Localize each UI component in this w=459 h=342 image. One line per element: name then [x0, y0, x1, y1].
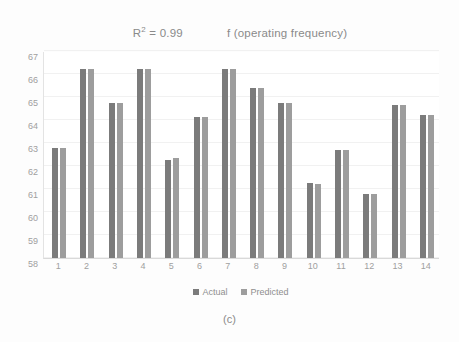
- bar-group: [222, 52, 236, 258]
- bar-actual-9: [278, 103, 284, 258]
- bar-predicted-14: [428, 115, 434, 258]
- bars-layer: [45, 52, 439, 258]
- bar-group: [109, 52, 123, 258]
- bar-predicted-8: [258, 88, 264, 258]
- legend-label: Predicted: [250, 287, 288, 297]
- chart-figure: R2 = 0.99 f (operating frequency) 676665…: [0, 0, 459, 342]
- bar-predicted-13: [400, 105, 406, 258]
- bar-group: [420, 52, 434, 258]
- legend-swatch-icon: [193, 289, 199, 295]
- bar-actual-11: [335, 150, 341, 258]
- bar-group: [363, 52, 377, 258]
- bar-predicted-4: [145, 69, 151, 258]
- x-axis-tick-label: 3: [112, 261, 117, 271]
- bar-predicted-1: [60, 148, 66, 258]
- legend-item-actual[interactable]: Actual: [193, 287, 227, 297]
- x-axis-tick-label: 9: [282, 261, 287, 271]
- x-axis-tick-label: 6: [197, 261, 202, 271]
- chart-legend: ActualPredicted: [43, 285, 439, 299]
- bar-predicted-3: [117, 103, 123, 258]
- x-axis-tick-label: 7: [225, 261, 230, 271]
- bar-predicted-9: [286, 103, 292, 258]
- bar-predicted-10: [315, 184, 321, 258]
- legend-swatch-icon: [241, 289, 247, 295]
- bar-group: [52, 52, 66, 258]
- bar-actual-8: [250, 88, 256, 258]
- bar-actual-14: [420, 115, 426, 258]
- bar-predicted-5: [173, 158, 179, 258]
- plot-area: 67666564636261605958: [43, 52, 439, 259]
- bar-group: [335, 52, 349, 258]
- legend-item-predicted[interactable]: Predicted: [241, 287, 288, 297]
- x-axis-tick-label: 1: [56, 261, 61, 271]
- x-axis-tick-label: 13: [393, 261, 403, 271]
- bar-group: [307, 52, 321, 258]
- x-axis-tick-label: 11: [336, 261, 345, 271]
- bar-actual-4: [137, 69, 143, 258]
- bar-actual-10: [307, 183, 313, 258]
- bar-group: [392, 52, 406, 258]
- gridline: [44, 50, 439, 51]
- r-squared-value: 0.99: [160, 27, 183, 39]
- x-axis-tick-label: 2: [84, 261, 89, 271]
- bar-group: [165, 52, 179, 258]
- x-axis-tick-label: 10: [308, 261, 318, 271]
- bar-predicted-7: [230, 69, 236, 258]
- bar-group: [278, 52, 292, 258]
- chart-title-row: R2 = 0.99 f (operating frequency): [40, 24, 440, 42]
- figure-caption: (c): [0, 313, 459, 325]
- x-axis-ticks: 1234567891011121314: [44, 261, 439, 277]
- bar-predicted-2: [88, 69, 94, 258]
- bar-group: [137, 52, 151, 258]
- bar-actual-3: [109, 103, 115, 258]
- bar-predicted-6: [202, 117, 208, 258]
- bar-actual-2: [80, 69, 86, 258]
- bar-actual-1: [52, 148, 58, 258]
- bar-actual-13: [392, 105, 398, 258]
- bar-group: [250, 52, 264, 258]
- bar-predicted-11: [343, 150, 349, 258]
- x-axis-tick-label: 8: [254, 261, 259, 271]
- chart-title: f (operating frequency): [227, 27, 347, 39]
- bar-group: [80, 52, 94, 258]
- x-axis-tick-label: 14: [421, 261, 431, 271]
- bar-predicted-12: [371, 194, 377, 258]
- bar-actual-5: [165, 160, 171, 258]
- legend-label: Actual: [202, 287, 227, 297]
- bar-actual-7: [222, 69, 228, 258]
- x-axis-tick-label: 5: [169, 261, 174, 271]
- bar-actual-6: [194, 117, 200, 258]
- x-axis-tick-label: 4: [140, 261, 145, 271]
- r-squared-annotation: R2 = 0.99: [133, 27, 183, 39]
- x-axis-tick-label: 12: [364, 261, 374, 271]
- bar-actual-12: [363, 194, 369, 258]
- bar-group: [194, 52, 208, 258]
